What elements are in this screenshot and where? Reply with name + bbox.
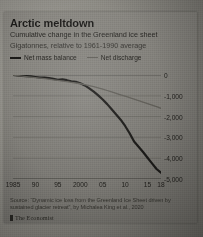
series-line-net-discharge	[13, 75, 161, 108]
x-axis-tick-label: 15	[144, 181, 151, 188]
chart-subtitle-line1: Cumulative change in the Greenland ice s…	[10, 30, 193, 40]
y-axis-tick-label: -5,000	[164, 176, 183, 183]
x-axis-tick-label: 18	[157, 181, 164, 188]
x-axis-tick-label: 1985	[6, 181, 21, 188]
source-note: Source: “Dynamic ice loss from the Green…	[10, 197, 190, 211]
line-chart-svg	[13, 75, 161, 179]
x-axis-tick-label: 05	[99, 181, 106, 188]
photo-page: Arctic meltdown Cumulative change in the…	[0, 0, 203, 237]
y-axis-tick-label: -2,000	[164, 113, 183, 120]
chart-legend: Net mass balance Net discharge	[10, 54, 193, 61]
legend-swatch-icon	[87, 57, 98, 59]
y-axis-tick-label: -1,000	[164, 92, 183, 99]
x-axis-tick-label: 10	[121, 181, 128, 188]
legend-item-net-mass-balance: Net mass balance	[10, 54, 77, 61]
x-axis-labels: 19859095200005101518	[13, 181, 161, 193]
economist-logo: The Economist	[10, 214, 54, 221]
legend-item-net-discharge: Net discharge	[87, 54, 142, 61]
x-axis-tick-label: 90	[32, 181, 39, 188]
page-title: Arctic meltdown	[10, 17, 193, 29]
chart-card: Arctic meltdown Cumulative change in the…	[4, 12, 197, 223]
chart-area: 0-1,000-2,000-3,000-4,000-5,000 19859095…	[10, 75, 193, 193]
x-axis-tick-label: 95	[54, 181, 61, 188]
plot-canvas	[13, 75, 161, 179]
chart-subtitle-line2: Gigatonnes, relative to 1961-1990 averag…	[10, 41, 193, 51]
logo-mark-icon	[10, 215, 13, 221]
gridlines	[13, 75, 161, 179]
y-axis-tick-label: -4,000	[164, 155, 183, 162]
legend-label: Net discharge	[101, 54, 142, 61]
y-axis-labels: 0-1,000-2,000-3,000-4,000-5,000	[162, 75, 196, 179]
chart-card-inner: Arctic meltdown Cumulative change in the…	[10, 17, 193, 220]
y-axis-tick-label: 0	[164, 72, 168, 79]
legend-swatch-icon	[10, 57, 21, 59]
x-axis-tick-label: 2000	[73, 181, 88, 188]
logo-text: The Economist	[15, 214, 54, 221]
y-axis-tick-label: -3,000	[164, 134, 183, 141]
legend-label: Net mass balance	[24, 54, 77, 61]
